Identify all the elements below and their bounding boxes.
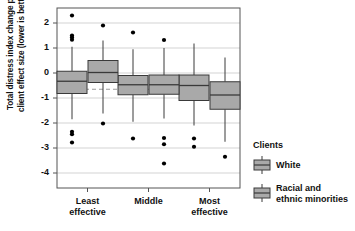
legend-label-0[interactable]: White	[276, 160, 301, 171]
box	[57, 71, 87, 93]
boxplot-minorities-1	[149, 38, 179, 166]
outlier-point	[162, 161, 166, 165]
outlier-point	[70, 38, 74, 42]
box	[88, 61, 118, 83]
boxplot-white-1	[118, 30, 148, 140]
boxplot-white-2	[179, 44, 209, 149]
legend-label-line2: ethnic minorities	[276, 194, 348, 205]
boxplot-minorities-0	[88, 23, 118, 125]
outlier-point	[192, 136, 196, 140]
outlier-point	[70, 132, 74, 136]
outlier-point	[223, 155, 227, 159]
legend-swatch-1[interactable]	[253, 183, 271, 203]
outlier-point	[162, 142, 166, 146]
boxplot-white-0	[57, 13, 87, 144]
legend-label-line1: White	[276, 160, 301, 171]
outlier-point	[131, 30, 135, 34]
outlier-point	[70, 13, 74, 17]
legend-label-1[interactable]: Racial andethnic minorities	[276, 183, 348, 205]
outlier-point	[131, 136, 135, 140]
outlier-point	[101, 121, 105, 125]
outlier-point	[162, 38, 166, 42]
outlier-point	[162, 136, 166, 140]
boxplot-chart: Total distress index change per client e…	[0, 0, 355, 231]
legend-swatch-0[interactable]	[253, 155, 271, 175]
outlier-point	[192, 145, 196, 149]
legend-label-line1: Racial and	[276, 183, 348, 194]
box	[179, 75, 209, 101]
legend-title: Clients	[253, 140, 283, 150]
outlier-point	[70, 140, 74, 144]
outlier-point	[101, 23, 105, 27]
